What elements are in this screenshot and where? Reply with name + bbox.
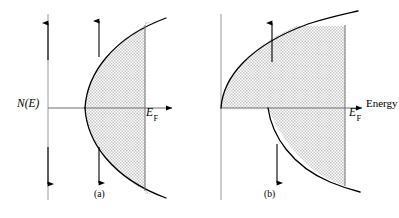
panel-b-caption: (b) (264, 190, 275, 200)
panel-b-fermi-level-label: EF (349, 107, 361, 122)
panel-a-fermi-subscript: F (153, 114, 158, 123)
figure-root: N(E) EF EF Energy (a) (b) (0, 0, 399, 218)
panel-b (221, 11, 362, 200)
density-of-states-label: N(E) (17, 98, 39, 110)
panel-b-fermi-symbol: E (349, 106, 356, 118)
dos-diagram (0, 0, 399, 218)
panel-b-occupied-region (221, 26, 345, 186)
energy-axis-label: Energy (366, 98, 398, 109)
panel-b-fermi-subscript: F (356, 114, 361, 123)
panel-a-fermi-level-label: EF (146, 107, 158, 122)
panel-a-fermi-symbol: E (146, 106, 153, 118)
panel-a-caption: (a) (94, 190, 105, 200)
